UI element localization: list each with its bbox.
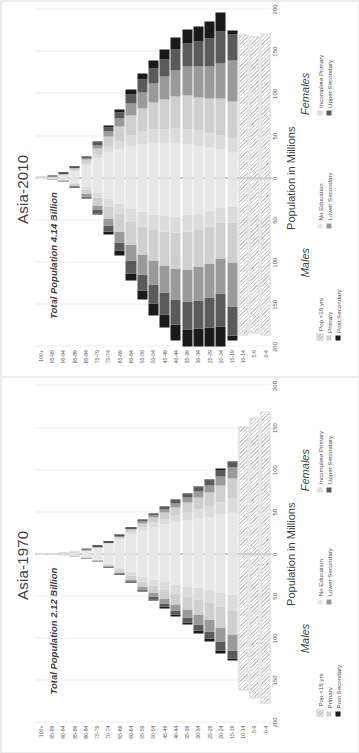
legend-label: Post Secondary xyxy=(334,664,341,708)
bar-segment-lower-secondary xyxy=(170,503,180,507)
bar-females xyxy=(237,386,248,554)
legend-item[interactable]: Pop <15 yrs xyxy=(316,610,323,716)
bar-males xyxy=(46,178,57,347)
legend-item[interactable]: Post Secondary xyxy=(334,234,341,341)
bar-segment-incomplete-primary xyxy=(159,215,169,231)
legend-item[interactable]: Incomplete Primary xyxy=(316,9,323,116)
bar-segment-upper-secondary xyxy=(125,260,135,273)
bar-segment-no-education xyxy=(204,178,214,211)
bar-segment-pop-under-15 xyxy=(238,426,248,554)
x-tick-label: 150 xyxy=(271,46,277,56)
bar-segment-primary xyxy=(193,497,203,509)
bar-segment-lower-secondary xyxy=(215,627,225,641)
legend-column: No EducationLower Secondary xyxy=(316,498,350,610)
bar-segment-primary xyxy=(81,189,91,193)
x-tick-label: 150 xyxy=(271,423,277,433)
bar-males xyxy=(102,554,113,722)
x-axis-title: Population in Millions xyxy=(284,9,296,347)
bar-segment-lower-secondary xyxy=(182,66,192,95)
bar-males xyxy=(204,554,215,722)
age-tick-label: 95-99 xyxy=(46,347,57,377)
bar-segment-primary xyxy=(125,575,135,579)
x-tick-label: 200 xyxy=(271,341,277,351)
bar-segment-no-education xyxy=(170,143,180,178)
bar-segment-primary xyxy=(170,96,180,128)
pyramid-row xyxy=(114,386,125,723)
x-tick-label: 50 xyxy=(271,217,277,224)
bar-segment-post-secondary xyxy=(103,125,113,127)
bar-females xyxy=(35,386,46,554)
pyramid-row xyxy=(260,386,271,723)
bar-segment-upper-secondary xyxy=(170,299,180,324)
bar-males xyxy=(204,178,215,347)
bar-females xyxy=(46,386,57,554)
bar-segment-no-education xyxy=(81,550,91,554)
legend-item[interactable]: Lower Secondary xyxy=(325,122,332,229)
bar-segment-no-education xyxy=(114,178,124,203)
legend-item[interactable]: Upper Secondary xyxy=(325,9,332,116)
pyramid-row xyxy=(226,9,237,347)
bar-segment-lower-secondary xyxy=(159,265,169,292)
legend-swatch-icon xyxy=(326,111,331,116)
bar-segment-no-education xyxy=(227,152,237,178)
legend-label: Incomplete Primary xyxy=(316,54,323,107)
bar-segment-lower-secondary xyxy=(159,77,169,100)
bar-males xyxy=(159,554,170,722)
bar-segment-no-education xyxy=(148,143,158,178)
bar-females xyxy=(102,386,113,554)
bar-males xyxy=(260,554,271,722)
bar-segment-primary xyxy=(148,229,158,260)
bar-segment-no-education xyxy=(69,171,79,178)
bar-segment-upper-secondary xyxy=(193,300,203,328)
bar-segment-lower-secondary xyxy=(137,254,147,274)
age-tick-label: 85-89 xyxy=(69,722,80,752)
bar-segment-upper-secondary xyxy=(125,94,135,103)
legend-item[interactable]: No Education xyxy=(316,498,323,604)
age-tick-label: 100+ xyxy=(35,347,46,377)
legend-item[interactable]: No Education xyxy=(316,122,323,229)
bar-segment-no-education xyxy=(92,158,102,177)
females-label: Females xyxy=(298,449,310,491)
bar-segment-primary xyxy=(137,226,147,254)
age-tick-label: 30-34 xyxy=(192,722,203,752)
legend-item[interactable]: Pop <15 yrs xyxy=(316,234,323,341)
age-tick-label: 30-34 xyxy=(192,347,203,377)
legend-item[interactable]: Primary xyxy=(325,610,332,716)
legend-swatch-icon xyxy=(326,599,331,604)
legend-item[interactable]: Incomplete Primary xyxy=(316,385,323,491)
age-tick-label: 25-29 xyxy=(204,347,215,377)
bar-males xyxy=(46,554,57,722)
bar-males xyxy=(114,178,125,347)
legend-item[interactable]: Primary xyxy=(325,234,332,341)
pyramid-row xyxy=(136,386,147,723)
bar-segment-incomplete-primary xyxy=(227,498,237,512)
bar-segment-upper-secondary xyxy=(204,297,214,327)
legend-item[interactable]: Upper Secondary xyxy=(325,385,332,491)
pyramid-row xyxy=(80,386,91,723)
age-tick-label: 55-59 xyxy=(136,347,147,377)
bar-males xyxy=(57,178,68,347)
bar-females xyxy=(69,386,80,554)
bar-males xyxy=(69,554,80,722)
bar-females xyxy=(80,9,91,178)
bar-segment-no-education xyxy=(227,178,237,207)
bar-segment-primary xyxy=(137,108,147,132)
bar-segment-incomplete-primary xyxy=(215,207,225,222)
age-tick-label: 65-69 xyxy=(114,347,125,377)
bar-segment-no-education xyxy=(114,149,124,178)
bar-females xyxy=(80,386,91,554)
x-tick-label: 50 xyxy=(271,132,277,139)
legend-item[interactable]: Lower Secondary xyxy=(325,498,332,604)
bar-males xyxy=(260,178,271,347)
bars-container xyxy=(35,386,271,723)
bar-males xyxy=(181,178,192,347)
pyramid-row xyxy=(69,386,80,723)
bar-segment-pop-under-15 xyxy=(249,554,259,699)
bar-segment-no-education xyxy=(215,514,225,554)
x-tick-label: 150 xyxy=(271,299,277,309)
bar-segment-no-education xyxy=(170,178,180,216)
legend-item[interactable]: Post Secondary xyxy=(334,610,341,716)
bar-males xyxy=(125,554,136,722)
legend-label: Upper Secondary xyxy=(325,436,332,484)
bar-segment-incomplete-primary xyxy=(159,519,169,525)
